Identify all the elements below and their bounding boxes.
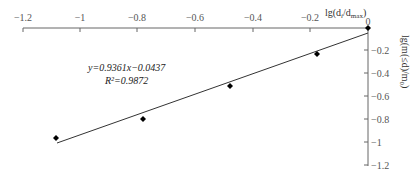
fit-line (57, 33, 368, 143)
x-ticks (23, 28, 310, 32)
y-axis-label: lg(m(≤d)/m₀) (399, 35, 411, 88)
chart: −1.2 −1 −0.8 −0.6 −0.4 −0.2 0 lg(di/dmax… (0, 0, 413, 177)
regression-equation: y=0.9361x−0.0437 (87, 62, 166, 73)
data-point (140, 116, 146, 122)
x-tick-label: −0.4 (244, 12, 262, 23)
x-tick-label: −0.2 (301, 12, 319, 23)
y-tick-label: −1 (371, 137, 382, 148)
x-tick-label: −1 (75, 12, 86, 23)
data-point (53, 135, 59, 141)
y-ticks (364, 50, 368, 165)
y-tick-label: −0.8 (371, 114, 389, 125)
y-tick-label: −0.4 (371, 68, 389, 79)
x-tick-label: −0.8 (128, 12, 146, 23)
r-squared: R²=0.9872 (104, 75, 148, 86)
x-axis-label: lg(di/dmax) (325, 7, 366, 20)
y-tick-label: −0.2 (371, 45, 389, 56)
data-points (53, 25, 371, 141)
x-tick-label: −0.6 (186, 12, 204, 23)
y-tick-label: −0.6 (371, 91, 389, 102)
x-tick-label: −1.2 (14, 12, 32, 23)
data-point (227, 83, 233, 89)
y-tick-label: −1.2 (371, 160, 389, 171)
